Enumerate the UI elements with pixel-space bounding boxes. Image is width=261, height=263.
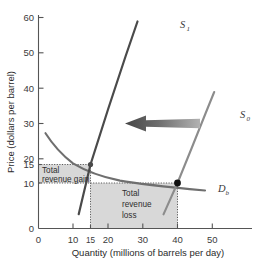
y-tick-label-40: 40 bbox=[23, 83, 34, 94]
x-tick-label-0: 0 bbox=[36, 234, 41, 245]
x-tick-label-20: 20 bbox=[103, 234, 114, 245]
loss-label-line-1: Total bbox=[122, 189, 139, 198]
supply-curve-original bbox=[164, 92, 215, 214]
y-tick-label-50: 50 bbox=[23, 47, 34, 58]
x-tick-label-40: 40 bbox=[172, 234, 183, 245]
curve-label-db: D b bbox=[217, 183, 230, 197]
x-tick-label-15: 15 bbox=[86, 236, 96, 245]
curve-label-s1: S 1 bbox=[180, 19, 190, 33]
gain-label-line-1: Total bbox=[42, 166, 59, 175]
x-tick-label-10: 10 bbox=[68, 234, 79, 245]
curve-label-s0-text: S bbox=[240, 109, 246, 120]
loss-label-line-2: revenue bbox=[122, 200, 152, 209]
chart-canvas: 60 50 40 30 20 15 10 0 0 10 15 20 30 40 … bbox=[0, 0, 261, 263]
y-tick-label-60: 60 bbox=[23, 12, 34, 23]
curve-label-s0: S 0 bbox=[240, 109, 251, 123]
original-equilibrium-dot bbox=[174, 180, 181, 187]
x-tick-label-30: 30 bbox=[138, 234, 149, 245]
loss-label-line-3: loss bbox=[122, 211, 137, 220]
supply-demand-chart: 60 50 40 30 20 15 10 0 0 10 15 20 30 40 … bbox=[0, 0, 261, 263]
curve-label-s0-subscript: 0 bbox=[247, 115, 251, 123]
curve-label-s1-text: S bbox=[180, 19, 186, 30]
curve-label-s1-subscript: 1 bbox=[187, 25, 191, 33]
curve-label-db-subscript: b bbox=[226, 189, 230, 197]
x-axis-title: Quantity (millions of barrels per day) bbox=[72, 247, 225, 258]
y-axis-title: Price (dollars per barrel) bbox=[5, 71, 16, 173]
gain-label-line-2: revenue gain bbox=[42, 175, 90, 184]
y-tick-label-15: 15 bbox=[23, 159, 34, 170]
y-tick-label-0: 0 bbox=[29, 223, 34, 234]
new-equilibrium-dot bbox=[88, 162, 93, 167]
y-tick-labels: 60 50 40 30 20 15 10 0 bbox=[23, 12, 34, 234]
x-tick-label-50: 50 bbox=[207, 234, 218, 245]
y-tick-label-30: 30 bbox=[23, 118, 34, 129]
supply-shift-arrow bbox=[125, 116, 200, 132]
y-tick-label-10: 10 bbox=[23, 178, 34, 189]
y-axis-ticks bbox=[39, 18, 44, 184]
x-tick-labels: 0 10 15 20 30 40 50 bbox=[36, 234, 218, 245]
